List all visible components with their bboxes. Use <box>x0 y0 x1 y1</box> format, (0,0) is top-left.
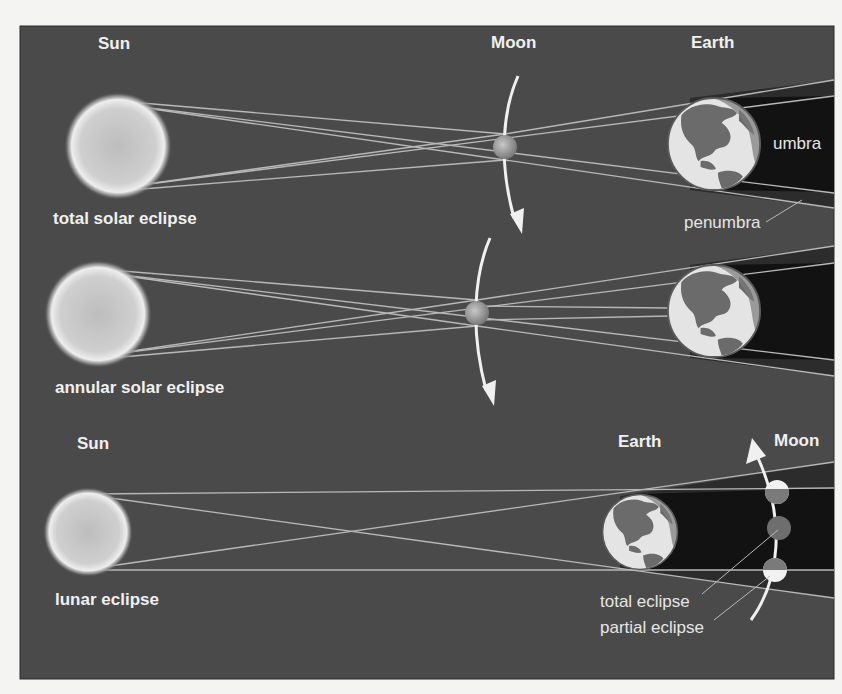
moon <box>465 301 489 325</box>
penumbra-label: penumbra <box>684 213 761 232</box>
sun <box>44 260 152 368</box>
sun <box>64 92 172 200</box>
total-solar-eclipse-caption: total solar eclipse <box>53 209 197 228</box>
earth-globe-icon <box>668 98 760 190</box>
partial-eclipse-label: partial eclipse <box>600 618 704 637</box>
total-eclipse-label: total eclipse <box>600 592 690 611</box>
sun-label: Sun <box>98 34 130 53</box>
earth-label: Earth <box>618 432 661 451</box>
sun <box>43 487 133 577</box>
earth-label: Earth <box>691 33 734 52</box>
earth-globe-icon <box>603 495 678 570</box>
annular-solar-eclipse-caption: annular solar eclipse <box>55 378 224 397</box>
moon <box>493 135 517 159</box>
lunar-eclipse-caption: lunar eclipse <box>55 590 159 609</box>
moon-label: Moon <box>491 33 536 52</box>
sun-label: Sun <box>77 434 109 453</box>
moon-partial-upper <box>765 480 789 504</box>
eclipse-diagram: Sun Moon Earth umbra penumbra total sola… <box>0 0 842 694</box>
umbra-label: umbra <box>773 134 822 153</box>
moon-label: Moon <box>774 431 819 450</box>
earth-globe-icon <box>668 265 760 357</box>
